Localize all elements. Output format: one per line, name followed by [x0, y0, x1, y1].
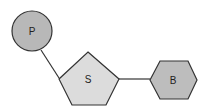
- nucleotide-diagram: P S B: [0, 0, 209, 110]
- edge-phosphate-sugar: [41, 50, 59, 78]
- node-sugar: S: [59, 52, 119, 105]
- sugar-label: S: [85, 74, 92, 85]
- node-phosphate: P: [12, 11, 52, 51]
- node-base: B: [150, 61, 197, 99]
- diagram-canvas: P S B: [0, 0, 209, 110]
- phosphate-label: P: [29, 26, 36, 37]
- base-label: B: [170, 75, 177, 86]
